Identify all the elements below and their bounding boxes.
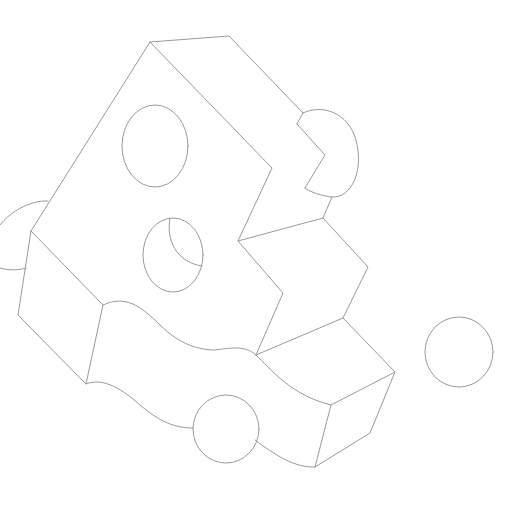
middle-step-line bbox=[256, 218, 368, 355]
top-hole-ellipse bbox=[122, 105, 188, 187]
wavy-bottom-right-line bbox=[255, 440, 315, 467]
right-notch-piece-line bbox=[297, 124, 325, 188]
middle-hole-ellipse bbox=[143, 218, 203, 292]
lower-step-line bbox=[315, 318, 395, 467]
left-block-line bbox=[18, 231, 103, 384]
right-notch-arc-line bbox=[303, 109, 359, 197]
middle-hole-inner-arc bbox=[169, 218, 202, 266]
block-outline-group bbox=[0, 36, 395, 467]
wavy-bottom-left-line bbox=[86, 382, 193, 428]
connector-mid-line bbox=[238, 197, 332, 241]
right-ball-ellipse bbox=[425, 317, 493, 387]
inner-diagonal-line bbox=[150, 42, 283, 355]
line-drawing bbox=[0, 0, 506, 507]
main-left-edge-line bbox=[31, 42, 150, 231]
left-partial-arc-bottom-line bbox=[0, 268, 26, 270]
left-partial-arc-top-line bbox=[0, 201, 48, 225]
top-face-edge-line bbox=[150, 36, 303, 113]
right-notch-arc-top-line bbox=[297, 113, 303, 124]
bottom-ball-ellipse bbox=[193, 395, 259, 463]
holes-group bbox=[122, 105, 493, 463]
wavy-top-line bbox=[103, 301, 331, 405]
drawing-canvas bbox=[0, 0, 506, 507]
